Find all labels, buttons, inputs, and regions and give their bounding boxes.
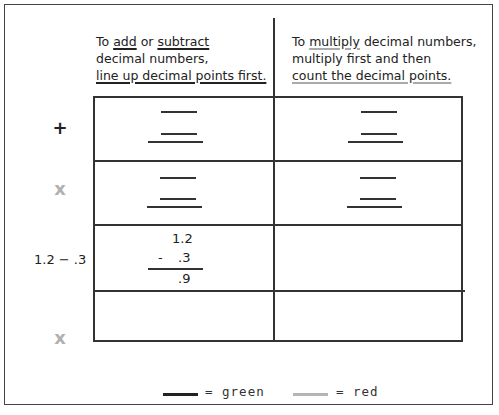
example-top-number: 1.2 bbox=[172, 231, 193, 246]
row-label-times-2: x bbox=[40, 327, 80, 348]
green-legend-label: = green bbox=[205, 384, 265, 399]
blank-line bbox=[160, 198, 196, 200]
column-divider bbox=[273, 18, 275, 340]
add-subtract-header: To add or subtract decimal numbers, line… bbox=[96, 33, 266, 84]
answer-line bbox=[347, 206, 402, 208]
row-divider-1 bbox=[93, 160, 463, 162]
multiply-word: multiply bbox=[309, 34, 360, 49]
answer-line bbox=[147, 206, 202, 208]
count-instruction: count the decimal points. bbox=[292, 67, 476, 84]
example-result: .9 bbox=[178, 271, 190, 286]
example-bottom-number: .3 bbox=[178, 250, 190, 265]
blank-line bbox=[160, 177, 196, 179]
table-left-border bbox=[93, 96, 95, 340]
answer-line bbox=[348, 141, 403, 143]
table-top-border bbox=[93, 96, 463, 98]
blank-line bbox=[361, 133, 397, 135]
row-divider-2 bbox=[93, 224, 463, 226]
row-divider-3 bbox=[95, 290, 465, 292]
red-swatch bbox=[293, 393, 328, 396]
multiply-header: To multiply decimal numbers, multiply fi… bbox=[292, 33, 476, 84]
table-bottom-border bbox=[93, 340, 463, 342]
example-answer-line bbox=[148, 268, 203, 270]
table-right-border bbox=[461, 96, 463, 340]
line-up-instruction: line up decimal points first. bbox=[96, 67, 266, 84]
row-label-plus: + bbox=[40, 117, 80, 138]
blank-line bbox=[360, 177, 396, 179]
example-operator: - bbox=[158, 250, 163, 265]
blank-line bbox=[161, 111, 197, 113]
row-label-times-1: x bbox=[40, 178, 80, 199]
blank-line bbox=[161, 133, 197, 135]
subtract-word: subtract bbox=[157, 34, 209, 49]
green-swatch bbox=[163, 393, 198, 396]
red-legend-label: = red bbox=[336, 384, 379, 399]
blank-line bbox=[360, 198, 396, 200]
answer-line bbox=[148, 141, 203, 143]
row-label-example: 1.2 − .3 bbox=[34, 252, 86, 267]
add-word: add bbox=[113, 34, 137, 49]
blank-line bbox=[361, 111, 397, 113]
